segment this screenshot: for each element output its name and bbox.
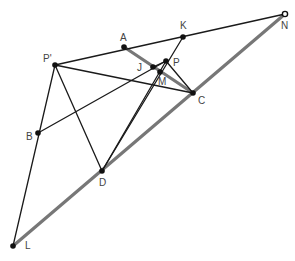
segments-layer <box>13 14 285 246</box>
label-a: A <box>120 32 127 43</box>
label-b: B <box>26 131 33 142</box>
point-k <box>180 34 186 40</box>
point-j <box>150 64 156 70</box>
labels-layer: AKNP'JPMCBDL <box>25 20 288 251</box>
point-c <box>190 90 196 96</box>
label-m: M <box>158 76 166 87</box>
label-c: C <box>198 95 205 106</box>
segment-l-n <box>13 14 285 246</box>
label-k: K <box>180 20 187 31</box>
label-l: L <box>25 240 31 251</box>
point-a <box>121 44 127 50</box>
point-n <box>282 11 287 16</box>
segment-d-p <box>102 61 166 171</box>
label-pprime: P' <box>43 53 52 64</box>
diagram-svg: AKNP'JPMCBDL <box>0 0 295 261</box>
label-d: D <box>99 177 106 188</box>
label-j: J <box>137 62 142 73</box>
point-l <box>10 243 16 249</box>
segment-pprime-d <box>55 65 102 171</box>
point-pprime <box>52 62 58 68</box>
label-n: N <box>281 20 288 31</box>
label-p: P <box>173 57 180 68</box>
point-d <box>99 168 105 174</box>
point-b <box>35 130 41 136</box>
segment-pprime-l <box>13 65 55 246</box>
point-p <box>163 58 169 64</box>
point-m <box>157 69 163 75</box>
geometry-diagram: AKNP'JPMCBDL <box>0 0 295 261</box>
